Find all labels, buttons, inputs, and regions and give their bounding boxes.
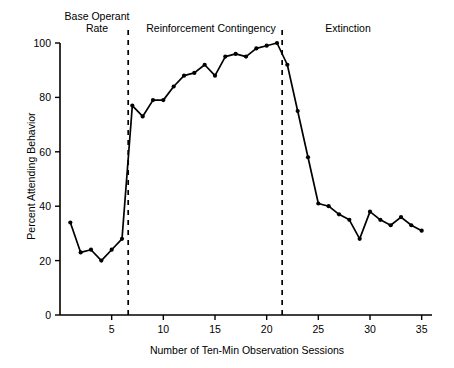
data-point (265, 44, 269, 48)
data-point (213, 74, 217, 78)
svg-text:100: 100 (33, 37, 51, 49)
y-axis-title: Percent Attending Behavior (25, 71, 37, 281)
svg-text:35: 35 (416, 323, 428, 335)
phase-label-extinction: Extinction (300, 22, 396, 34)
data-series-line (70, 43, 421, 261)
svg-text:20: 20 (261, 323, 273, 335)
data-point (68, 220, 72, 224)
data-point (420, 229, 424, 233)
data-point (378, 218, 382, 222)
data-point (151, 98, 155, 102)
data-point (234, 52, 238, 56)
data-point (275, 41, 279, 45)
data-point (244, 55, 248, 59)
svg-text:0: 0 (45, 309, 51, 321)
data-point (130, 103, 134, 107)
data-point-markers (68, 41, 424, 263)
y-axis-ticks: 020406080100 (33, 37, 60, 321)
data-point (316, 201, 320, 205)
data-point (399, 215, 403, 219)
phase-divider-lines (128, 30, 282, 315)
line-chart-canvas: 020406080100 5101520253035 (0, 0, 454, 368)
data-point (182, 74, 186, 78)
data-point (141, 114, 145, 118)
svg-text:20: 20 (39, 255, 51, 267)
data-point (389, 223, 393, 227)
phase-label-reinforcement-contingency: Reinforcement Contingency (136, 22, 286, 34)
data-point (172, 84, 176, 88)
data-point (254, 46, 258, 50)
data-point (120, 237, 124, 241)
data-point (79, 250, 83, 254)
data-point (285, 63, 289, 67)
x-axis-ticks: 5101520253035 (109, 315, 428, 335)
data-point (223, 55, 227, 59)
svg-text:15: 15 (209, 323, 221, 335)
svg-text:30: 30 (364, 323, 376, 335)
svg-text:80: 80 (39, 91, 51, 103)
data-point (161, 98, 165, 102)
data-point (296, 109, 300, 113)
data-point (110, 248, 114, 252)
data-point (99, 259, 103, 263)
data-point (358, 237, 362, 241)
data-point (337, 212, 341, 216)
chart-figure: 020406080100 5101520253035 Base Operant … (0, 0, 454, 368)
data-point (347, 218, 351, 222)
phase-label-base-operant-rate: Base Operant Rate (58, 10, 136, 34)
svg-text:60: 60 (39, 146, 51, 158)
svg-text:40: 40 (39, 200, 51, 212)
x-axis-title: Number of Ten-Min Observation Sessions (60, 344, 434, 356)
data-point (368, 210, 372, 214)
svg-text:25: 25 (312, 323, 324, 335)
data-point (89, 248, 93, 252)
data-point (327, 204, 331, 208)
data-point (203, 63, 207, 67)
svg-text:5: 5 (109, 323, 115, 335)
data-point (409, 223, 413, 227)
data-point (306, 155, 310, 159)
svg-text:10: 10 (157, 323, 169, 335)
data-point (192, 71, 196, 75)
